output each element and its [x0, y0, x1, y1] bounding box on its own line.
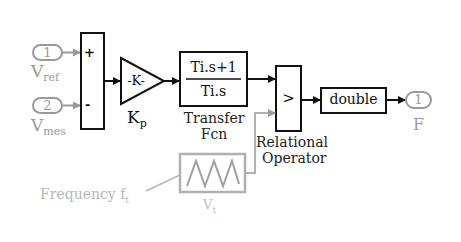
label-sub: mes: [43, 125, 66, 138]
outport-label: F: [413, 117, 424, 133]
tf-label-line2: Fcn: [176, 127, 252, 141]
label-main: V: [203, 197, 212, 212]
label-sub: t: [125, 195, 129, 205]
inport-1-number: 1: [33, 45, 62, 60]
label-sub: ref: [43, 71, 59, 84]
gain-label: Kp: [127, 109, 147, 129]
label-main: V: [31, 115, 43, 135]
label-sub: p: [140, 117, 147, 130]
sum-minus-sign: -: [85, 98, 90, 111]
carrier-label: Vt: [203, 198, 216, 215]
frequency-annotation: Frequency ft: [40, 187, 129, 205]
relational-symbol: >: [276, 91, 301, 106]
tf-denominator: Ti.s: [180, 84, 247, 98]
inport-2-number: 2: [33, 98, 62, 113]
annotation-leader-line: [146, 175, 180, 191]
gain-value: -K-: [121, 74, 151, 87]
relational-label-line2: Operator: [262, 151, 327, 165]
inport-1-label: Vref: [31, 63, 59, 83]
convert-type: double: [321, 92, 386, 106]
tf-label-line1: Transfer: [176, 111, 252, 125]
inport-2-label: Vmes: [31, 117, 66, 137]
sum-plus-sign: +: [84, 46, 95, 59]
label-sub: t: [212, 205, 216, 215]
label-main: V: [31, 61, 43, 81]
relational-label-line1: Relational: [256, 135, 328, 149]
outport-number: 1: [406, 92, 431, 108]
label-main: K: [127, 107, 140, 127]
tf-numerator: Ti.s+1: [180, 60, 247, 74]
label-main: Frequency f: [40, 186, 125, 202]
